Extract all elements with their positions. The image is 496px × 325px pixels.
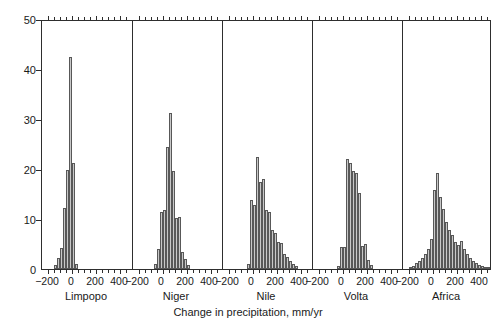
x-tick-mark bbox=[253, 269, 254, 274]
x-tick-mark bbox=[66, 269, 67, 273]
x-tick-mark-top bbox=[457, 16, 458, 21]
x-tick-mark-top bbox=[241, 17, 242, 21]
y-tick-label: 40 bbox=[14, 65, 36, 75]
x-tick-mark-top bbox=[271, 17, 272, 21]
x-tick-mark bbox=[114, 269, 115, 273]
x-tick-mark-top bbox=[451, 17, 452, 21]
x-tick-mark-top bbox=[439, 17, 440, 21]
panel-name-label: Nile bbox=[221, 290, 311, 302]
x-tick-mark-top bbox=[217, 17, 218, 21]
x-tick-mark-top bbox=[145, 17, 146, 21]
x-tick-mark-top bbox=[397, 17, 398, 21]
x-tick-mark-top bbox=[48, 16, 49, 21]
x-tick-mark bbox=[187, 269, 188, 274]
x-tick-mark bbox=[319, 269, 320, 274]
x-tick-label: 400 bbox=[459, 276, 496, 287]
panel-niger bbox=[132, 21, 222, 269]
x-tick-mark bbox=[163, 269, 164, 274]
x-tick-mark bbox=[487, 269, 488, 273]
x-tick-mark bbox=[126, 269, 127, 273]
x-tick-mark bbox=[271, 269, 272, 273]
x-tick-mark-top bbox=[114, 17, 115, 21]
x-tick-mark-top bbox=[205, 17, 206, 21]
x-tick-mark bbox=[181, 269, 182, 273]
x-tick-mark bbox=[433, 269, 434, 274]
histogram-bars bbox=[42, 21, 132, 269]
x-tick-mark-top bbox=[307, 17, 308, 21]
panel-name-label: Africa bbox=[401, 290, 491, 302]
panel-name-label: Niger bbox=[131, 290, 221, 302]
x-tick-mark-top bbox=[421, 17, 422, 21]
x-tick-mark bbox=[193, 269, 194, 273]
x-tick-mark-top bbox=[211, 16, 212, 21]
x-tick-mark bbox=[379, 269, 380, 273]
plot-area bbox=[41, 20, 491, 270]
x-tick-mark bbox=[211, 269, 212, 274]
y-tick-label: 0 bbox=[14, 265, 36, 275]
x-tick-mark bbox=[427, 269, 428, 273]
x-tick-mark-top bbox=[151, 17, 152, 21]
x-tick-mark-top bbox=[139, 16, 140, 21]
x-tick-mark bbox=[415, 269, 416, 273]
x-tick-mark bbox=[90, 269, 91, 273]
x-tick-mark bbox=[301, 269, 302, 274]
y-tick-label: 30 bbox=[14, 115, 36, 125]
x-tick-mark-top bbox=[379, 17, 380, 21]
x-tick-mark-top bbox=[108, 17, 109, 21]
x-tick-mark-top bbox=[175, 17, 176, 21]
x-tick-mark-top bbox=[463, 17, 464, 21]
histogram-bars bbox=[133, 21, 222, 269]
panel-limpopo bbox=[42, 21, 132, 269]
x-tick-mark-top bbox=[126, 17, 127, 21]
x-tick-mark-top bbox=[331, 17, 332, 21]
x-tick-mark bbox=[157, 269, 158, 273]
x-tick-mark-top bbox=[433, 16, 434, 21]
x-tick-mark bbox=[78, 269, 79, 273]
panel-name-label: Limpopo bbox=[41, 290, 131, 302]
panel-africa bbox=[402, 21, 492, 269]
x-tick-mark-top bbox=[163, 16, 164, 21]
histogram-bars bbox=[223, 21, 312, 269]
x-tick-mark bbox=[60, 269, 61, 273]
x-tick-mark-top bbox=[325, 17, 326, 21]
x-tick-mark-top bbox=[469, 17, 470, 21]
x-tick-mark bbox=[445, 269, 446, 273]
x-tick-mark bbox=[235, 269, 236, 273]
x-tick-mark-top bbox=[481, 16, 482, 21]
x-tick-mark-top bbox=[90, 17, 91, 21]
x-tick-mark-top bbox=[301, 16, 302, 21]
x-tick-mark-top bbox=[409, 16, 410, 21]
x-tick-mark bbox=[289, 269, 290, 273]
x-tick-mark bbox=[331, 269, 332, 273]
x-tick-mark-top bbox=[487, 17, 488, 21]
x-tick-mark-top bbox=[60, 17, 61, 21]
x-tick-mark bbox=[367, 269, 368, 274]
x-tick-mark-top bbox=[66, 17, 67, 21]
x-tick-mark bbox=[307, 269, 308, 273]
x-tick-mark-top bbox=[169, 17, 170, 21]
x-tick-mark-top bbox=[295, 17, 296, 21]
x-tick-mark-top bbox=[235, 17, 236, 21]
x-tick-mark bbox=[343, 269, 344, 274]
x-tick-mark bbox=[409, 269, 410, 274]
x-tick-mark-top bbox=[283, 17, 284, 21]
x-tick-mark-top bbox=[385, 17, 386, 21]
x-tick-mark bbox=[48, 269, 49, 274]
x-tick-mark-top bbox=[96, 16, 97, 21]
x-tick-mark bbox=[325, 269, 326, 273]
y-tick-label: 50 bbox=[14, 15, 36, 25]
x-tick-mark bbox=[96, 269, 97, 274]
x-tick-mark bbox=[469, 269, 470, 273]
y-tick-label: 10 bbox=[14, 215, 36, 225]
x-tick-mark bbox=[229, 269, 230, 274]
x-tick-mark-top bbox=[187, 16, 188, 21]
x-tick-mark bbox=[84, 269, 85, 273]
x-tick-mark-top bbox=[78, 17, 79, 21]
x-tick-mark bbox=[361, 269, 362, 273]
x-tick-mark bbox=[108, 269, 109, 273]
x-tick-mark bbox=[175, 269, 176, 273]
x-tick-mark bbox=[277, 269, 278, 274]
x-tick-mark bbox=[247, 269, 248, 273]
x-tick-mark bbox=[451, 269, 452, 273]
x-tick-mark bbox=[72, 269, 73, 274]
